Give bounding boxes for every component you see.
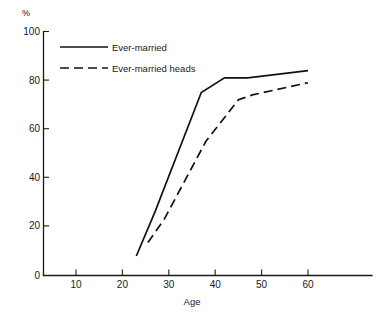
series-line-ever-married-heads [148,83,308,243]
x-tick-label-30: 30 [163,279,175,290]
x-axis-ticks: 10 20 30 40 50 60 [70,270,314,291]
y-axis-unit-label: % [22,8,30,18]
x-tick-label-50: 50 [256,279,268,290]
y-axis-ticks: 100 80 60 40 20 0 [23,26,49,281]
x-tick-label-10: 10 [70,279,82,290]
y-tick-label-60: 60 [29,123,41,134]
legend-label-ever-married-heads: Ever-married heads [112,63,196,74]
x-axis-title: Age [184,296,201,307]
series-line-ever-married [136,71,308,256]
y-tick-label-0: 0 [34,270,40,281]
y-tick-label-80: 80 [29,75,41,86]
x-tick-label-60: 60 [302,279,314,290]
x-tick-label-20: 20 [117,279,129,290]
y-tick-label-20: 20 [29,220,41,231]
y-tick-label-100: 100 [23,26,40,37]
legend: Ever-married Ever-married heads [60,42,196,74]
chart-container: % 100 80 60 40 20 0 10 20 [0,0,376,319]
legend-label-ever-married: Ever-married [112,42,167,53]
line-chart: % 100 80 60 40 20 0 10 20 [0,0,376,319]
y-tick-label-40: 40 [29,172,41,183]
x-tick-label-40: 40 [210,279,222,290]
